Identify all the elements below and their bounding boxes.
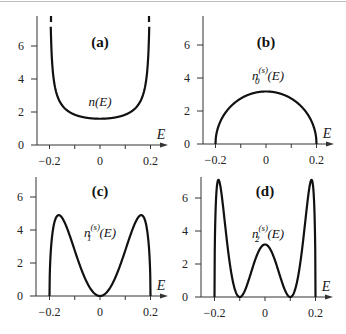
x-tick-label: −0.2 <box>39 305 61 319</box>
x-axis-arrow-icon <box>160 294 168 299</box>
y-tick-label: 0 <box>18 138 24 152</box>
panel-label: (c) <box>92 183 109 200</box>
x-axis-label: E <box>156 278 166 293</box>
x-axis-label: E <box>156 127 166 142</box>
x-axis-arrow-icon <box>160 143 168 148</box>
x-tick-label: −0.2 <box>204 306 226 320</box>
x-tick-label: 0 <box>97 305 103 319</box>
panel-b: 0246−0.200.2E(b)n(s)0(E) <box>184 16 334 167</box>
x-tick-label: 0 <box>262 306 268 320</box>
y-tick-label: 6 <box>18 39 24 53</box>
panel-c: 0246−0.200.2E(c)n(s)1(E) <box>17 177 168 319</box>
figure-grid: 0246−0.200.2E(a)n(E)0246−0.200.2E(b)n(s)… <box>0 0 346 334</box>
x-tick-label: 0.2 <box>143 154 158 168</box>
curve-label: n(s)0(E) <box>252 65 284 86</box>
curve-label: n(s)1(E) <box>84 222 116 243</box>
y-tick-label: 0 <box>17 289 23 303</box>
y-tick-label: 2 <box>18 105 24 119</box>
panel-a: 0246−0.200.2E(a)n(E) <box>18 16 168 168</box>
x-axis-arrow-icon <box>325 295 333 300</box>
y-tick-label: 6 <box>182 191 188 205</box>
panel-label: (d) <box>256 183 274 200</box>
y-tick-label: 6 <box>17 190 23 204</box>
y-tick-label: 2 <box>182 257 188 271</box>
x-tick-label: 0.2 <box>309 153 324 167</box>
y-tick-label: 2 <box>17 256 23 270</box>
y-tick-label: 4 <box>182 224 188 238</box>
data-curve <box>216 91 317 144</box>
y-tick-label: 0 <box>184 137 190 151</box>
panel-label: (a) <box>91 34 109 51</box>
x-tick-label: 0.2 <box>308 306 323 320</box>
y-tick-label: 2 <box>184 104 190 118</box>
x-tick-label: 0.2 <box>143 305 158 319</box>
x-tick-label: −0.2 <box>39 154 61 168</box>
y-tick-label: 6 <box>184 38 190 52</box>
x-axis-label: E <box>321 279 331 294</box>
panel-label: (b) <box>257 34 275 51</box>
curve-label: n(s)2(E) <box>252 223 284 244</box>
x-tick-label: −0.2 <box>205 153 227 167</box>
x-axis-arrow-icon <box>326 142 334 147</box>
x-tick-label: 0 <box>263 153 269 167</box>
y-tick-label: 4 <box>184 71 190 85</box>
x-axis-label: E <box>322 126 332 141</box>
x-tick-label: 0 <box>97 154 103 168</box>
y-tick-label: 4 <box>17 223 23 237</box>
curve-label: n(E) <box>88 94 111 109</box>
panel-d: 0246−0.200.2E(d)n(s)2(E) <box>182 177 333 320</box>
y-tick-label: 4 <box>18 72 24 86</box>
y-tick-label: 0 <box>182 290 188 304</box>
